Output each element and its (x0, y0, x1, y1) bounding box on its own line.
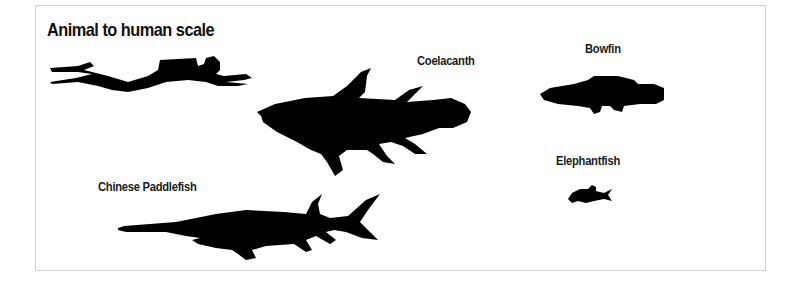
bowfin-label: Bowfin (585, 41, 621, 56)
bowfin-silhouette-icon (538, 70, 666, 116)
scuba-diver-silhouette-icon (48, 54, 253, 94)
figure-title: Animal to human scale (47, 19, 214, 41)
coelacanth-silhouette-icon (255, 66, 475, 178)
chinese-paddlefish-silhouette-icon (116, 192, 381, 264)
scale-figure-frame: Animal to human scale Coelacanth Bowfin … (35, 5, 766, 271)
elephantfish-label: Elephantfish (556, 153, 620, 168)
elephantfish-silhouette-icon (566, 183, 614, 205)
